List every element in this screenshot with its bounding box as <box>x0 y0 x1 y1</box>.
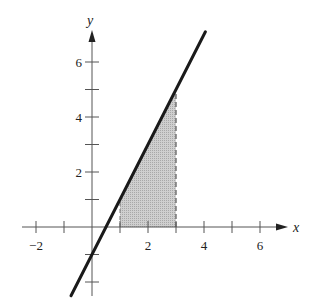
y-axis-arrow-icon <box>89 30 96 42</box>
y-tick-label: 4 <box>76 110 83 125</box>
y-axis-label: y <box>85 13 94 28</box>
line-series <box>71 32 205 296</box>
y-tick-label: 2 <box>76 165 83 180</box>
function-line <box>71 32 205 296</box>
x-tick-label: 2 <box>145 238 152 253</box>
shaded-area <box>120 90 176 228</box>
chart-container: −2246246xy <box>0 0 309 301</box>
line-chart: −2246246xy <box>0 0 309 301</box>
x-tick-label: −2 <box>29 238 43 253</box>
x-axis-label: x <box>292 220 300 235</box>
x-axis-arrow-icon <box>276 224 288 231</box>
y-tick-label: 6 <box>76 55 83 70</box>
x-tick-label: 6 <box>257 238 264 253</box>
shaded-region <box>120 90 176 228</box>
x-tick-label: 4 <box>201 238 208 253</box>
